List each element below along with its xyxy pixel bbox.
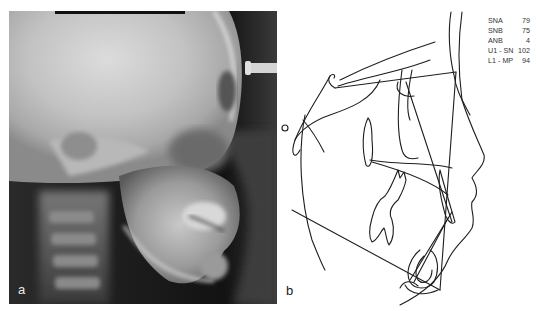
panel-label-b: b	[286, 284, 293, 297]
measurement-name: ANB	[488, 36, 503, 46]
measurement-value: 102	[518, 46, 530, 56]
radiograph-panel	[9, 11, 277, 304]
measurement-value: 94	[522, 56, 530, 66]
measurement-name: SNA	[488, 16, 503, 26]
scale-bar	[55, 11, 185, 14]
measurement-row-l1-mp: L1 - MP 94	[488, 56, 530, 66]
radiograph-image	[9, 11, 277, 304]
measurement-row-snb: SNB 75	[488, 26, 530, 36]
panel-label-a: a	[18, 283, 25, 296]
measurement-value: 4	[526, 36, 530, 46]
measurement-table: SNA 79 SNB 75 ANB 4 U1 - SN 102 L1 - MP …	[488, 16, 530, 66]
measurement-name: L1 - MP	[488, 56, 513, 66]
measurement-row-u1-sn: U1 - SN 102	[488, 46, 530, 56]
figure: a	[0, 0, 536, 311]
measurement-row-sna: SNA 79	[488, 16, 530, 26]
measurement-value: 79	[522, 16, 530, 26]
measurement-row-anb: ANB 4	[488, 36, 530, 46]
measurement-value: 75	[522, 26, 530, 36]
measurement-name: SNB	[488, 26, 503, 36]
measurement-name: U1 - SN	[488, 46, 514, 56]
